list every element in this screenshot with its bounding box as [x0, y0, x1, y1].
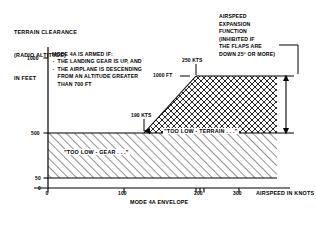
too-low-terrain-region — [144, 76, 277, 133]
x-tick-label-300: 300 — [233, 190, 242, 196]
callout-1000-ft: 1000 FT — [153, 72, 172, 78]
x-axis-title: AIRSPEED IN KNOTS — [256, 190, 314, 196]
x-tick-label-200: 200 — [194, 190, 203, 196]
y-tick-label-50: 50 — [35, 175, 41, 181]
y-tick-label-1000: 1000 — [27, 55, 39, 61]
y-tick-label-0: 0 — [38, 185, 41, 191]
y-tick-label-500: 500 — [31, 130, 40, 136]
expansion-note-leader — [279, 45, 298, 74]
chart-caption: MODE 4A ENVELOPE — [130, 199, 188, 205]
x-tick-label-100: 100 — [118, 190, 127, 196]
region-label-too-low-gear: "TOO LOW - GEAR . . ." — [63, 149, 130, 155]
too-low-gear-region — [48, 133, 277, 178]
expansion-span-arrow — [277, 75, 294, 135]
x-axis — [34, 188, 290, 193]
callout-250-kts: 250 KTS — [182, 57, 202, 63]
region-label-too-low-terrain: "TOO LOW - TERRAIN . . ." — [163, 128, 239, 134]
y-axis — [44, 47, 49, 188]
x-tick-label-0: 0 — [46, 190, 49, 196]
callout-190-kts: 190 KTS — [131, 112, 151, 118]
